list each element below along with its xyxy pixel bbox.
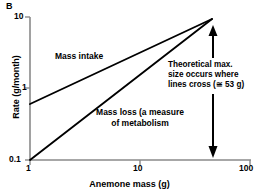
chart-canvas — [0, 0, 259, 196]
x-tick-label-100: 100 — [239, 163, 253, 173]
annotation-line-1: Theoretical max. — [168, 60, 258, 70]
x-axis-title: Anemone mass (g) — [0, 179, 259, 189]
series-label-mass-intake: Mass intake — [55, 51, 103, 61]
y-tick-label-10: 10 — [14, 11, 23, 21]
series-label-mass-loss: Mass loss (a measure of metabolism — [88, 107, 192, 129]
y-tick-label-0.1: 0.1 — [9, 154, 21, 164]
annotation-arrow-double-headed — [209, 25, 218, 158]
x-tick-label-1: 1 — [26, 163, 31, 173]
figure-panel-b: B 10 1 0.1 1 10 100 Anem — [0, 0, 259, 196]
annotation-line-3: lines cross (≅ 53 g) — [168, 80, 258, 90]
series-label-mass-loss-line2: of metabolism — [111, 118, 169, 128]
annotation-theoretical-max: Theoretical max. size occurs where lines… — [168, 60, 258, 90]
x-tick-label-10: 10 — [133, 163, 142, 173]
series-label-mass-loss-line1: Mass loss (a measure — [96, 107, 184, 117]
y-axis-title: Rate (g/month) — [11, 27, 21, 147]
annotation-line-2: size occurs where — [168, 70, 258, 80]
y-tick-label-1: 1 — [22, 82, 27, 92]
